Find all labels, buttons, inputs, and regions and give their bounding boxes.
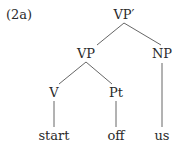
node-v: V xyxy=(48,85,59,100)
edge-vp-v xyxy=(59,62,86,84)
syntax-tree: (2a) VP′ VP NP V Pt start off us xyxy=(0,0,181,149)
leaf-us: us xyxy=(154,128,169,143)
edge-vp-pt xyxy=(86,62,112,84)
node-vp: VP xyxy=(76,46,95,61)
node-np: NP xyxy=(152,46,172,61)
example-label: (2a) xyxy=(6,7,32,22)
node-pt: Pt xyxy=(109,85,124,100)
node-vp-prime: VP′ xyxy=(112,7,134,22)
edge-vpprime-np xyxy=(124,23,161,45)
leaf-off: off xyxy=(107,128,126,143)
edge-vpprime-vp xyxy=(97,23,124,45)
leaf-start: start xyxy=(38,128,70,143)
